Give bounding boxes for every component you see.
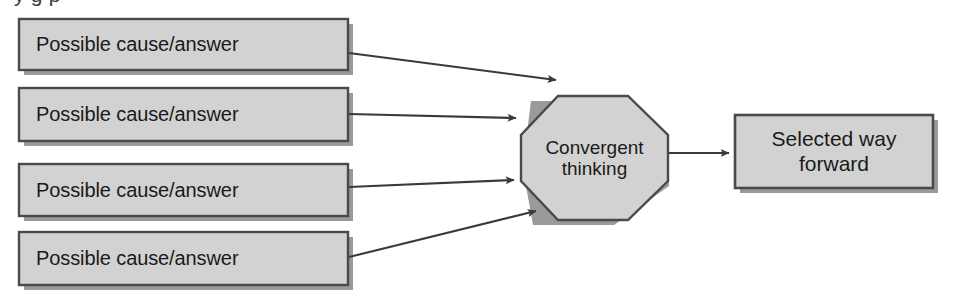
diagram-graphics: [0, 0, 953, 308]
cause-box-3[interactable]: [19, 164, 348, 216]
connector-cause-2: [349, 114, 516, 118]
cause-box-1[interactable]: [19, 19, 348, 70]
cause-box-2[interactable]: [19, 88, 348, 141]
connector-cause-1: [349, 53, 556, 80]
outcome-box[interactable]: [735, 115, 933, 188]
connector-cause-3: [349, 180, 514, 187]
connector-cause-4: [349, 211, 536, 257]
octagon-shape-convergent-thinking[interactable]: [521, 96, 668, 220]
cause-box-4[interactable]: [19, 232, 348, 285]
diagram-canvas: y g p: [0, 0, 953, 308]
